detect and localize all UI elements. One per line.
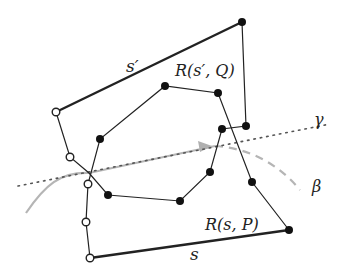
diagram-canvas: s′ R(s′, Q) γ β R(s, P) s bbox=[0, 0, 341, 278]
label-R-s-prime-Q: R(s′, Q) bbox=[174, 61, 235, 80]
label-s: s bbox=[190, 244, 199, 264]
filled-vertices bbox=[96, 18, 293, 234]
beta-arrow-icon bbox=[198, 141, 212, 152]
beta-curve-solid bbox=[26, 146, 215, 213]
label-gamma: γ bbox=[314, 110, 324, 129]
label-R-s-P: R(s, P) bbox=[204, 215, 259, 234]
label-beta: β bbox=[311, 177, 321, 196]
label-s-prime: s′ bbox=[126, 56, 139, 76]
beta-curve-dashed bbox=[215, 146, 300, 190]
